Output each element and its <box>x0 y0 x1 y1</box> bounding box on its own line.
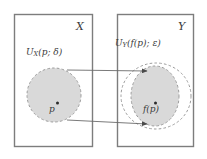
delta-neighborhood-label-args: (p; δ) <box>38 47 62 57</box>
delta-neighborhood-label-prefix: U <box>26 47 34 57</box>
continuity-diagram: X Y UX(p; δ) UY(f(p); ε) p f(p) <box>0 0 207 159</box>
epsilon-neighborhood-label-prefix: U <box>115 38 123 48</box>
point-p-label: p <box>49 105 55 114</box>
codomain-set-label: Y <box>178 21 185 32</box>
lower-mapping-arrow <box>67 120 147 124</box>
point-fp-label: f(p) <box>143 105 159 114</box>
image-region-ellipse <box>131 66 179 126</box>
domain-set-label: X <box>76 21 84 32</box>
delta-neighborhood-label: UX(p; δ) <box>26 48 62 58</box>
epsilon-neighborhood-label-args: (f(p); ε) <box>127 38 161 48</box>
epsilon-neighborhood-label: UY(f(p); ε) <box>115 39 161 49</box>
upper-mapping-arrow <box>67 70 147 71</box>
diagram-canvas <box>0 0 207 159</box>
point-p-dot <box>56 102 59 105</box>
